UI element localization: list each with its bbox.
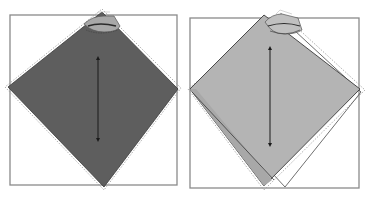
right-panel <box>188 10 365 190</box>
left-diamond <box>8 12 178 187</box>
right-diamond <box>190 15 360 186</box>
diagram-canvas <box>0 0 375 202</box>
figure <box>0 0 375 202</box>
left-panel <box>5 9 181 190</box>
